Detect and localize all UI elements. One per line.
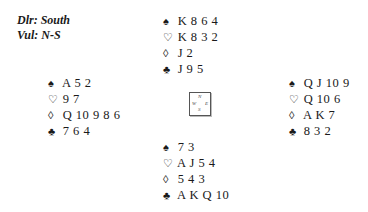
diamond-icon: ◊ xyxy=(163,45,174,61)
club-icon: ♣ xyxy=(163,187,174,203)
compass-north: N xyxy=(198,94,201,99)
east-spades: ♠ Q J 10 9 xyxy=(289,75,350,91)
north-clubs: ♣ J 9 5 xyxy=(163,61,218,77)
diamond-icon: ◊ xyxy=(289,107,300,123)
club-icon: ♣ xyxy=(163,61,174,77)
east-clubs: ♣ 8 3 2 xyxy=(289,123,350,139)
diamond-icon: ◊ xyxy=(163,171,174,187)
dealer-label: Dlr: South xyxy=(17,13,70,28)
compass-east: E xyxy=(205,101,208,106)
spade-icon: ♠ xyxy=(163,139,174,155)
north-diamonds: ◊ J 2 xyxy=(163,45,218,61)
spade-icon: ♠ xyxy=(48,75,59,91)
south-hand: ♠ 7 3 ♡ A J 5 4 ◊ 5 4 3 ♣ A K Q 10 xyxy=(163,139,229,203)
west-hand: ♠ A 5 2 ♡ 9 7 ◊ Q 10 9 8 6 ♣ 7 6 4 xyxy=(48,75,120,139)
south-hearts: ♡ A J 5 4 xyxy=(163,155,229,171)
diamond-icon: ◊ xyxy=(48,107,59,123)
east-diamonds: ◊ A K 7 xyxy=(289,107,350,123)
vulnerability-label: Vul: N-S xyxy=(17,28,70,43)
north-spades: ♠ K 8 6 4 xyxy=(163,13,218,29)
west-diamonds: ◊ Q 10 9 8 6 xyxy=(48,107,120,123)
compass-south: S xyxy=(198,107,201,112)
compass-west: W xyxy=(192,101,196,106)
west-spades: ♠ A 5 2 xyxy=(48,75,120,91)
south-clubs: ♣ A K Q 10 xyxy=(163,187,229,203)
heart-icon: ♡ xyxy=(163,155,174,171)
east-hearts: ♡ Q 10 6 xyxy=(289,91,350,107)
west-hearts: ♡ 9 7 xyxy=(48,91,120,107)
south-spades: ♠ 7 3 xyxy=(163,139,229,155)
south-diamonds: ◊ 5 4 3 xyxy=(163,171,229,187)
club-icon: ♣ xyxy=(289,123,300,139)
north-hand: ♠ K 8 6 4 ♡ K 8 3 2 ◊ J 2 ♣ J 9 5 xyxy=(163,13,218,77)
west-clubs: ♣ 7 6 4 xyxy=(48,123,120,139)
spade-icon: ♠ xyxy=(163,13,174,29)
heart-icon: ♡ xyxy=(163,29,174,45)
north-hearts: ♡ K 8 3 2 xyxy=(163,29,218,45)
club-icon: ♣ xyxy=(48,123,59,139)
spade-icon: ♠ xyxy=(289,75,300,91)
east-hand: ♠ Q J 10 9 ♡ Q 10 6 ◊ A K 7 ♣ 8 3 2 xyxy=(289,75,350,139)
deal-info: Dlr: South Vul: N-S xyxy=(17,13,70,43)
heart-icon: ♡ xyxy=(48,91,59,107)
heart-icon: ♡ xyxy=(289,91,300,107)
compass-box: N W E S xyxy=(189,92,211,116)
